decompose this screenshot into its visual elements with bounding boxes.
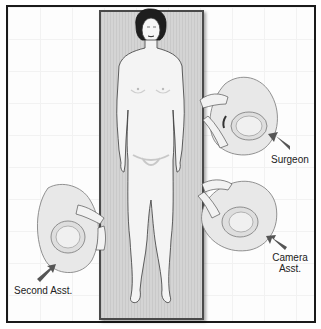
label-camera-assistant: Camera Asst.: [270, 252, 310, 274]
camera-assistant-figure: [198, 180, 277, 251]
second-assistant-figure: [37, 184, 105, 272]
label-camera-line1: Camera: [270, 252, 310, 263]
camera-arrow-icon: [266, 235, 287, 250]
second-arrow-icon: [37, 264, 56, 282]
patient-figure: [117, 9, 185, 303]
label-surgeon: Surgeon: [271, 154, 309, 165]
label-second-assistant: Second Asst.: [14, 285, 72, 296]
label-camera-line2: Asst.: [270, 263, 310, 274]
surgeon-figure: [200, 77, 277, 155]
